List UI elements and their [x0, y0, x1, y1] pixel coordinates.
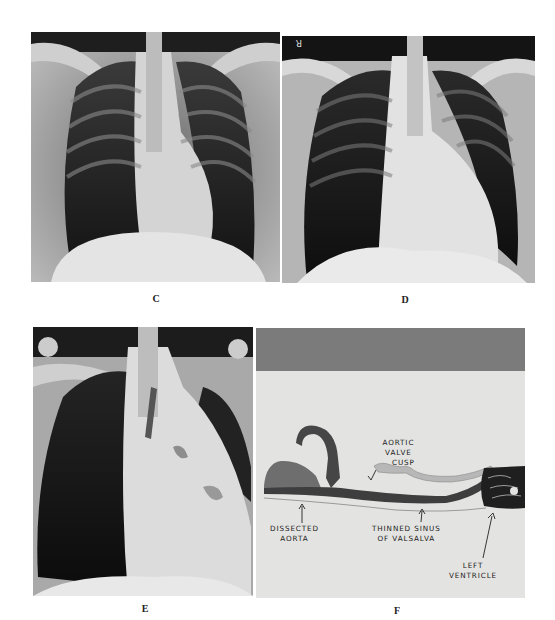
- label-thinned-sinus: THINNED SINUS OF VALSALVA: [372, 524, 441, 544]
- xray-image: R: [282, 36, 535, 283]
- xray-image: [33, 327, 253, 596]
- panel-label-e: E: [142, 603, 149, 614]
- xray-image: [31, 32, 280, 282]
- panel-label-d: D: [401, 294, 408, 305]
- panel-label-f: F: [394, 605, 400, 616]
- label-dissected-aorta: DISSECTED AORTA: [270, 524, 319, 544]
- panel-e-radiograph: [33, 327, 253, 596]
- panel-f-histology: AORTIC VALVE CUSP DISSECTED AORTA THINNE…: [256, 328, 525, 598]
- orientation-marker: R: [296, 38, 302, 48]
- panel-c-radiograph: [31, 32, 280, 282]
- panel-d-radiograph: R: [282, 36, 535, 283]
- label-aortic-valve-cusp: AORTIC VALVE CUSP: [382, 438, 415, 468]
- label-left-ventricle: LEFT VENTRICLE: [449, 561, 497, 581]
- panel-label-c: C: [152, 293, 159, 304]
